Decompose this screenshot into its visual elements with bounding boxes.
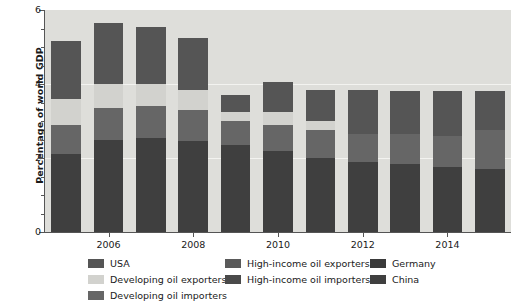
bar-2014[interactable] — [433, 91, 463, 232]
bar-segment — [390, 164, 420, 232]
legend-label: China — [392, 274, 419, 285]
bar-segment — [136, 106, 166, 137]
bar-segment — [348, 90, 378, 134]
bar-segment — [390, 91, 420, 134]
legend-swatch-icon — [88, 275, 104, 284]
bar-segment — [221, 121, 251, 145]
x-tick-label: 2012 — [343, 239, 383, 250]
bar-segment — [51, 99, 81, 125]
bar-segment — [178, 90, 208, 110]
bar-segment — [348, 162, 378, 232]
bar-segment — [390, 134, 420, 164]
y-tick-minor — [41, 195, 44, 196]
bar-segment — [306, 130, 336, 158]
bar-segment — [348, 134, 378, 162]
legend-swatch-icon — [225, 259, 241, 268]
legend-label: Germany — [392, 258, 436, 269]
bar-2006[interactable] — [94, 23, 124, 232]
legend-item[interactable]: USA — [88, 256, 227, 271]
bar-2013[interactable] — [390, 91, 420, 232]
bar-segment — [306, 90, 336, 121]
legend-item[interactable]: Developing oil exporters — [88, 272, 227, 287]
bar-segment — [94, 140, 124, 233]
legend-swatch-icon — [225, 275, 241, 284]
legend-swatch-icon — [88, 291, 104, 300]
bar-segment — [94, 108, 124, 139]
bar-2012[interactable] — [348, 90, 378, 232]
legend-item[interactable]: Germany — [370, 256, 436, 271]
x-tick — [447, 233, 448, 237]
bar-segment — [263, 125, 293, 151]
bar-segment — [51, 125, 81, 155]
x-tick-label: 2008 — [173, 239, 213, 250]
legend-label: High-income oil exporters — [247, 258, 370, 269]
bar-segment — [221, 112, 251, 121]
bar-segment — [433, 136, 463, 167]
legend-label: Developing oil exporters — [110, 274, 226, 285]
bar-segment — [433, 91, 463, 135]
legend-column: High-income oil exportersHigh-income oil… — [225, 256, 370, 288]
y-tick-minor — [41, 29, 44, 30]
x-tick — [193, 233, 194, 237]
bar-2010[interactable] — [263, 82, 293, 232]
y-tick-label: 4 — [11, 79, 41, 89]
legend-column: GermanyChina — [370, 256, 436, 288]
bar-segment — [221, 95, 251, 112]
bar-segment — [263, 112, 293, 125]
legend-swatch-icon — [370, 275, 386, 284]
bar-segment — [94, 84, 124, 108]
bar-segment — [306, 121, 336, 130]
legend-item[interactable]: High-income oil exporters — [225, 256, 370, 271]
y-tick-minor — [41, 140, 44, 141]
bar-segment — [475, 130, 505, 169]
bar-segment — [136, 84, 166, 106]
bar-segment — [178, 141, 208, 232]
bar-segment — [51, 154, 81, 232]
legend-item[interactable]: China — [370, 272, 436, 287]
bar-2009[interactable] — [221, 95, 251, 232]
bar-segment — [51, 41, 81, 98]
bar-segment — [263, 151, 293, 232]
x-tick — [109, 233, 110, 237]
y-tick-label: 6 — [11, 5, 41, 15]
x-tick-label: 2006 — [89, 239, 129, 250]
legend-swatch-icon — [88, 259, 104, 268]
x-tick-label: 2014 — [427, 239, 467, 250]
bar-segment — [306, 158, 336, 232]
legend-label: High-income oil importers — [247, 274, 370, 285]
legend-column: USADeveloping oil exportersDeveloping oi… — [88, 256, 227, 304]
bar-segment — [221, 145, 251, 232]
legend-label: USA — [110, 258, 130, 269]
legend-label: Developing oil importers — [110, 290, 227, 301]
legend-item[interactable]: Developing oil importers — [88, 288, 227, 303]
chart-figure: Percentage of world GDP USADeveloping oi… — [0, 0, 515, 306]
bar-segment — [475, 91, 505, 130]
legend-swatch-icon — [370, 259, 386, 268]
x-tick — [278, 233, 279, 237]
bar-segment — [263, 82, 293, 112]
y-tick-label: 2 — [11, 153, 41, 163]
chart-legend: USADeveloping oil exportersDeveloping oi… — [0, 256, 515, 306]
y-tick-minor — [41, 214, 44, 215]
bar-2005[interactable] — [51, 41, 81, 232]
bar-2011[interactable] — [306, 90, 336, 232]
y-tick-minor — [41, 47, 44, 48]
bar-segment — [433, 167, 463, 232]
y-tick-label: 0 — [11, 227, 41, 237]
y-tick-minor — [41, 103, 44, 104]
bar-2007[interactable] — [136, 27, 166, 232]
bar-2015[interactable] — [475, 91, 505, 232]
plot-area — [45, 10, 511, 232]
x-tick — [363, 233, 364, 237]
bar-segment — [94, 23, 124, 84]
bar-segment — [136, 138, 166, 232]
bar-segment — [178, 38, 208, 90]
y-tick-minor — [41, 66, 44, 67]
bar-2008[interactable] — [178, 38, 208, 232]
y-tick-minor — [41, 121, 44, 122]
y-axis-line — [44, 10, 45, 233]
bar-segment — [475, 169, 505, 232]
y-axis-title: Percentage of world GDP — [34, 1, 45, 231]
legend-item[interactable]: High-income oil importers — [225, 272, 370, 287]
bar-segment — [178, 110, 208, 141]
